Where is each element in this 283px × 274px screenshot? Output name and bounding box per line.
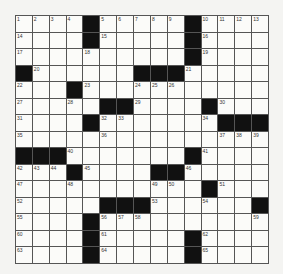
grid-cell[interactable]: 30 — [218, 99, 234, 115]
grid-cell[interactable] — [33, 198, 49, 214]
grid-cell[interactable]: 58 — [134, 214, 150, 230]
grid-cell[interactable] — [134, 115, 150, 131]
grid-cell[interactable] — [117, 165, 133, 181]
grid-cell[interactable] — [235, 165, 251, 181]
grid-cell[interactable] — [185, 132, 201, 148]
grid-cell[interactable]: 40 — [67, 148, 83, 164]
grid-cell[interactable]: 39 — [252, 132, 268, 148]
grid-cell[interactable]: 64 — [100, 247, 116, 263]
grid-cell[interactable] — [252, 247, 268, 263]
grid-cell[interactable]: 2 — [33, 16, 49, 32]
grid-cell[interactable] — [202, 214, 218, 230]
grid-cell[interactable] — [50, 247, 66, 263]
grid-cell[interactable] — [83, 181, 99, 197]
grid-cell[interactable] — [185, 115, 201, 131]
grid-cell[interactable]: 8 — [151, 16, 167, 32]
grid-cell[interactable] — [252, 148, 268, 164]
grid-cell[interactable]: 6 — [117, 16, 133, 32]
grid-cell[interactable]: 9 — [168, 16, 184, 32]
grid-cell[interactable] — [185, 82, 201, 98]
grid-cell[interactable] — [235, 33, 251, 49]
grid-cell[interactable] — [168, 115, 184, 131]
grid-cell[interactable] — [151, 148, 167, 164]
grid-cell[interactable] — [33, 99, 49, 115]
grid-cell[interactable]: 12 — [235, 16, 251, 32]
grid-cell[interactable]: 52 — [16, 198, 32, 214]
grid-cell[interactable] — [151, 231, 167, 247]
grid-cell[interactable] — [67, 66, 83, 82]
grid-cell[interactable]: 27 — [16, 99, 32, 115]
grid-cell[interactable] — [50, 99, 66, 115]
grid-cell[interactable] — [67, 214, 83, 230]
grid-cell[interactable] — [185, 181, 201, 197]
grid-cell[interactable] — [33, 33, 49, 49]
grid-cell[interactable] — [50, 132, 66, 148]
grid-cell[interactable]: 57 — [117, 214, 133, 230]
grid-cell[interactable]: 4 — [67, 16, 83, 32]
grid-cell[interactable]: 18 — [83, 49, 99, 65]
grid-cell[interactable] — [50, 66, 66, 82]
grid-cell[interactable] — [168, 99, 184, 115]
grid-cell[interactable] — [33, 115, 49, 131]
grid-cell[interactable] — [50, 231, 66, 247]
grid-cell[interactable] — [33, 49, 49, 65]
grid-cell[interactable] — [50, 82, 66, 98]
grid-cell[interactable] — [151, 132, 167, 148]
grid-cell[interactable] — [235, 148, 251, 164]
grid-cell[interactable]: 42 — [16, 165, 32, 181]
grid-cell[interactable] — [50, 214, 66, 230]
grid-cell[interactable]: 61 — [100, 231, 116, 247]
grid-cell[interactable] — [67, 247, 83, 263]
grid-cell[interactable] — [100, 49, 116, 65]
grid-cell[interactable] — [67, 33, 83, 49]
grid-cell[interactable]: 51 — [218, 181, 234, 197]
grid-cell[interactable] — [235, 181, 251, 197]
grid-cell[interactable]: 24 — [134, 82, 150, 98]
grid-cell[interactable] — [100, 148, 116, 164]
grid-cell[interactable] — [83, 99, 99, 115]
grid-cell[interactable]: 47 — [16, 181, 32, 197]
grid-cell[interactable] — [235, 231, 251, 247]
grid-cell[interactable]: 7 — [134, 16, 150, 32]
grid-cell[interactable] — [100, 82, 116, 98]
grid-cell[interactable] — [168, 148, 184, 164]
grid-cell[interactable] — [134, 148, 150, 164]
grid-cell[interactable] — [218, 82, 234, 98]
grid-cell[interactable]: 11 — [218, 16, 234, 32]
grid-cell[interactable] — [218, 66, 234, 82]
grid-cell[interactable]: 63 — [16, 247, 32, 263]
grid-cell[interactable] — [33, 231, 49, 247]
grid-cell[interactable] — [50, 33, 66, 49]
grid-cell[interactable] — [218, 198, 234, 214]
grid-cell[interactable]: 15 — [100, 33, 116, 49]
grid-cell[interactable]: 59 — [252, 214, 268, 230]
grid-cell[interactable]: 65 — [202, 247, 218, 263]
grid-cell[interactable] — [252, 66, 268, 82]
grid-cell[interactable]: 35 — [16, 132, 32, 148]
grid-cell[interactable] — [50, 49, 66, 65]
grid-cell[interactable] — [117, 49, 133, 65]
grid-cell[interactable]: 26 — [168, 82, 184, 98]
grid-cell[interactable]: 13 — [252, 16, 268, 32]
grid-cell[interactable] — [67, 132, 83, 148]
grid-cell[interactable]: 21 — [185, 66, 201, 82]
grid-cell[interactable]: 56 — [100, 214, 116, 230]
grid-cell[interactable] — [252, 33, 268, 49]
grid-cell[interactable]: 41 — [202, 148, 218, 164]
grid-cell[interactable] — [252, 165, 268, 181]
grid-cell[interactable] — [252, 49, 268, 65]
grid-cell[interactable] — [83, 132, 99, 148]
grid-cell[interactable] — [100, 181, 116, 197]
grid-cell[interactable] — [67, 231, 83, 247]
grid-cell[interactable] — [168, 214, 184, 230]
grid-cell[interactable] — [151, 247, 167, 263]
grid-cell[interactable]: 60 — [16, 231, 32, 247]
grid-cell[interactable] — [83, 198, 99, 214]
grid-cell[interactable] — [134, 181, 150, 197]
grid-cell[interactable] — [168, 33, 184, 49]
grid-cell[interactable] — [134, 49, 150, 65]
grid-cell[interactable]: 43 — [33, 165, 49, 181]
grid-cell[interactable] — [67, 115, 83, 131]
grid-cell[interactable]: 33 — [117, 115, 133, 131]
grid-cell[interactable] — [235, 49, 251, 65]
